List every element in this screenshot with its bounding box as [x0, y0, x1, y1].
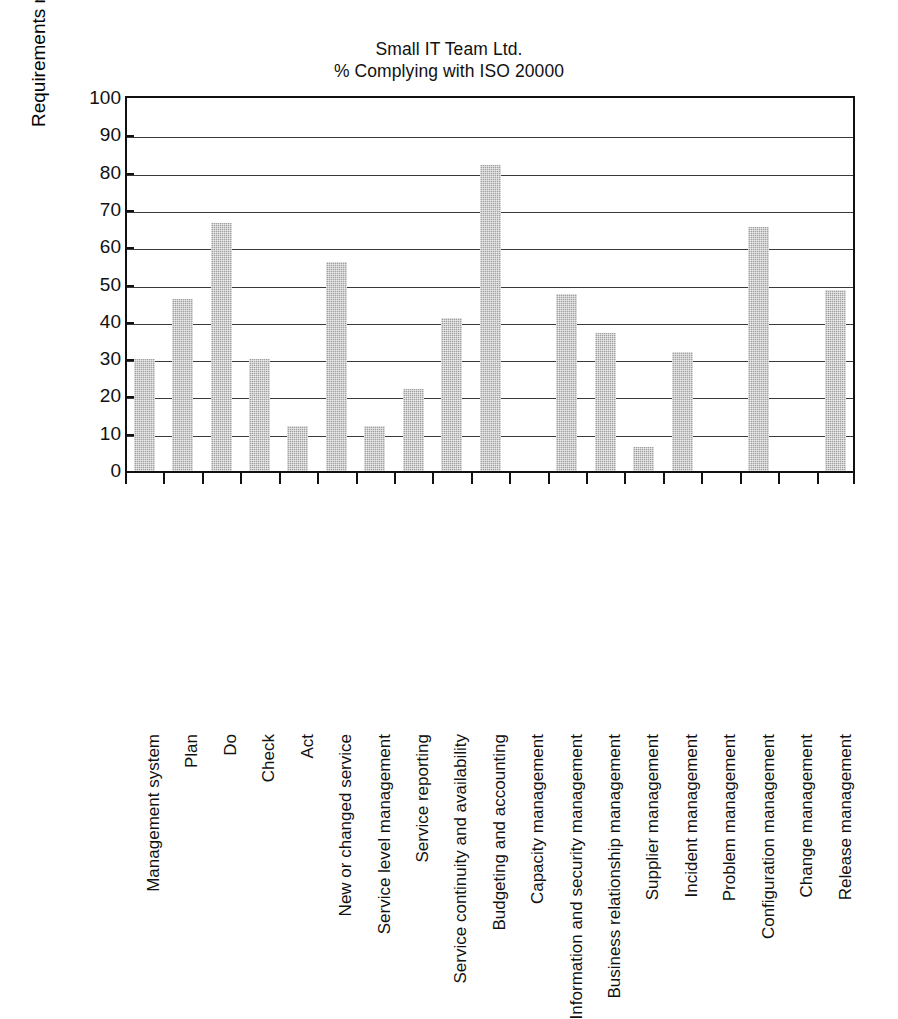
x-tick-mark	[202, 473, 204, 484]
x-axis-label: Configuration management	[758, 734, 780, 939]
chart-title: Small IT Team Ltd. % Complying with ISO …	[0, 38, 898, 82]
y-tick-mark-20	[125, 396, 134, 398]
x-axis-label: Management system	[143, 734, 165, 892]
x-tick-mark	[279, 473, 281, 484]
gridline-70	[127, 212, 853, 213]
x-axis-label: Problem management	[719, 734, 741, 901]
x-label-slot: Business relationship management	[586, 486, 608, 736]
y-tick-label-40: 40	[73, 312, 121, 331]
x-axis-ticks	[125, 473, 855, 484]
x-axis-label: Capacity management	[527, 734, 549, 904]
y-tick-label-70: 70	[73, 200, 121, 219]
gridline-80	[127, 175, 853, 176]
x-tick-mark	[163, 473, 165, 484]
x-tick-mark	[853, 473, 855, 484]
x-axis-label: Change management	[796, 734, 818, 898]
x-label-slot: Supplier management	[624, 486, 646, 736]
x-axis-label: Business relationship management	[604, 734, 626, 999]
x-label-slot: Budgeting and accounting	[471, 486, 493, 736]
chart-subtitle: % Complying with ISO 20000	[0, 60, 898, 82]
gridlines	[127, 98, 853, 471]
y-tick-mark-10	[125, 434, 134, 436]
x-tick-mark	[394, 473, 396, 484]
x-label-slot: Check	[240, 486, 262, 736]
x-tick-mark	[701, 473, 703, 484]
y-tick-mark-90	[125, 135, 134, 137]
x-label-slot: Information and security management	[548, 486, 570, 736]
x-axis-label: Service reporting	[412, 734, 434, 863]
x-axis-label: Plan	[181, 734, 203, 768]
x-tick-mark	[356, 473, 358, 484]
y-axis-title: Requirements met (%)	[24, 0, 54, 221]
x-axis-label: Act	[297, 734, 319, 759]
x-axis-label: Incident management	[681, 734, 703, 898]
y-tick-mark-60	[125, 247, 134, 249]
x-tick-mark	[548, 473, 550, 484]
y-tick-mark-80	[125, 173, 134, 175]
y-tick-label-50: 50	[73, 275, 121, 294]
x-tick-mark	[586, 473, 588, 484]
x-label-slot: Incident management	[663, 486, 685, 736]
gridline-90	[127, 137, 853, 138]
x-label-slot: Service continuity and availability	[432, 486, 454, 736]
x-axis-label: Do	[220, 734, 242, 756]
gridline-60	[127, 249, 853, 250]
x-label-slot: Change management	[778, 486, 800, 736]
x-label-slot: Capacity management	[509, 486, 531, 736]
x-tick-mark	[125, 473, 127, 484]
gridline-30	[127, 361, 853, 362]
x-tick-mark	[663, 473, 665, 484]
x-axis-label: Release management	[835, 734, 857, 900]
x-tick-mark	[740, 473, 742, 484]
x-tick-mark	[509, 473, 511, 484]
x-label-slot: Do	[202, 486, 224, 736]
x-label-slot: Release management	[817, 486, 839, 736]
x-label-slot: Plan	[163, 486, 185, 736]
plot-area	[125, 96, 855, 473]
x-label-slot: Configuration management	[740, 486, 762, 736]
y-tick-label-30: 30	[73, 349, 121, 368]
x-tick-mark	[624, 473, 626, 484]
y-tick-label-10: 10	[73, 424, 121, 443]
x-label-slot: Service reporting	[394, 486, 416, 736]
x-axis-label: Information and security management	[566, 734, 588, 1019]
gridline-10	[127, 436, 853, 437]
x-axis-label: Service level management	[374, 734, 396, 934]
x-label-slot: Act	[279, 486, 301, 736]
x-tick-mark	[317, 473, 319, 484]
y-tick-label-20: 20	[73, 386, 121, 405]
x-tick-mark	[471, 473, 473, 484]
y-tick-mark-70	[125, 210, 134, 212]
gridline-50	[127, 287, 853, 288]
y-tick-mark-40	[125, 322, 134, 324]
x-tick-mark	[240, 473, 242, 484]
chart-title-line1: Small IT Team Ltd.	[375, 39, 522, 59]
x-axis-category-labels: Management systemPlanDoCheckActNew or ch…	[125, 486, 855, 736]
x-label-slot: Problem management	[701, 486, 723, 736]
gridline-20	[127, 398, 853, 399]
x-tick-mark	[817, 473, 819, 484]
x-tick-mark	[432, 473, 434, 484]
x-label-slot: Management system	[125, 486, 147, 736]
y-tick-label-0: 0	[73, 461, 121, 480]
x-label-slot: Service level management	[356, 486, 378, 736]
x-label-slot: New or changed service	[317, 486, 339, 736]
x-axis-label: Budgeting and accounting	[489, 734, 511, 931]
gridline-40	[127, 324, 853, 325]
x-axis-label: Supplier management	[642, 734, 664, 900]
x-axis-label: Check	[258, 734, 280, 782]
y-axis-tick-labels: 0102030405060708090100	[63, 96, 121, 473]
y-tick-mark-30	[125, 359, 134, 361]
y-tick-label-60: 60	[73, 237, 121, 256]
y-tick-label-80: 80	[73, 163, 121, 182]
x-axis-label: New or changed service	[335, 734, 357, 916]
y-tick-label-100: 100	[73, 88, 121, 107]
y-tick-label-90: 90	[73, 125, 121, 144]
y-tick-mark-50	[125, 285, 134, 287]
x-axis-label: Service continuity and availability	[450, 734, 472, 983]
x-tick-mark	[778, 473, 780, 484]
